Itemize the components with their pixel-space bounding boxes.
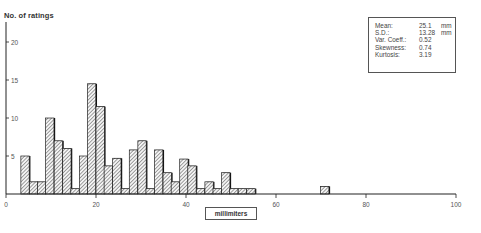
x-tick-label: 20 bbox=[92, 201, 100, 208]
stat-value: 0.74 bbox=[419, 44, 441, 51]
stat-label: S.D.: bbox=[375, 29, 419, 36]
histogram-bar bbox=[138, 141, 146, 194]
histogram-bar bbox=[230, 189, 238, 194]
stat-unit bbox=[441, 44, 455, 51]
stat-row: S.D.:13.28mm bbox=[375, 29, 455, 36]
stat-value: 25.1 bbox=[419, 22, 441, 29]
statistics-box: Mean:25.1mmS.D.:13.28mmVar. Coeff.:0.52S… bbox=[368, 17, 456, 73]
histogram-bar bbox=[205, 182, 213, 194]
y-tick-label: 20 bbox=[11, 39, 19, 46]
stat-unit bbox=[441, 36, 455, 43]
histogram-bar bbox=[54, 141, 62, 194]
histogram-bar bbox=[71, 189, 79, 194]
y-axis-label: No. of ratings bbox=[4, 11, 54, 20]
stat-value: 3.19 bbox=[419, 51, 441, 58]
histogram-bar bbox=[46, 118, 54, 194]
histogram-bar bbox=[188, 166, 196, 194]
y-tick-label: 5 bbox=[11, 153, 15, 160]
histogram-bar bbox=[38, 182, 46, 194]
histogram-bar bbox=[171, 182, 179, 194]
histogram-bar bbox=[196, 189, 204, 194]
histogram-bar bbox=[321, 186, 329, 194]
histogram-bar bbox=[79, 156, 87, 194]
stat-row: Kurtosis:3.19 bbox=[375, 51, 455, 58]
histogram-bar bbox=[96, 107, 104, 194]
histogram-bar bbox=[129, 150, 137, 194]
histogram-bar bbox=[247, 189, 255, 194]
stat-unit: mm bbox=[441, 29, 455, 36]
stat-value: 13.28 bbox=[419, 29, 441, 36]
stat-row: Skewness:0.74 bbox=[375, 44, 455, 51]
stat-label: Var. Coeff.: bbox=[375, 36, 419, 43]
histogram-bars bbox=[21, 84, 330, 194]
x-tick-label: 80 bbox=[362, 201, 370, 208]
histogram-bar bbox=[213, 189, 221, 194]
histogram-bar bbox=[222, 173, 230, 194]
histogram-bar bbox=[63, 148, 71, 194]
stat-unit bbox=[441, 51, 455, 58]
stat-label: Kurtosis: bbox=[375, 51, 419, 58]
stat-unit: mm bbox=[441, 22, 455, 29]
histogram-bar bbox=[29, 182, 37, 194]
x-tick-label: 60 bbox=[272, 201, 280, 208]
x-tick-label: 40 bbox=[182, 201, 190, 208]
x-axis-label: millimiters bbox=[205, 207, 257, 220]
histogram-bar bbox=[113, 158, 121, 194]
stat-row: Mean:25.1mm bbox=[375, 22, 455, 29]
histogram-bar bbox=[146, 189, 154, 194]
stat-label: Mean: bbox=[375, 22, 419, 29]
stat-label: Skewness: bbox=[375, 44, 419, 51]
histogram-bar bbox=[238, 189, 246, 194]
histogram-bar bbox=[21, 156, 29, 194]
histogram-bar bbox=[87, 84, 95, 194]
histogram-bar bbox=[163, 173, 171, 194]
stat-row: Var. Coeff.:0.52 bbox=[375, 36, 455, 43]
histogram-bar bbox=[180, 159, 188, 194]
histogram-bar bbox=[155, 150, 163, 194]
y-tick-label: 10 bbox=[11, 115, 19, 122]
x-tick-label: 100 bbox=[451, 201, 462, 208]
histogram-bar bbox=[104, 166, 112, 194]
y-tick-label: 15 bbox=[11, 77, 19, 84]
stat-value: 0.52 bbox=[419, 36, 441, 43]
x-tick-label: 0 bbox=[4, 201, 8, 208]
histogram-bar bbox=[121, 189, 129, 194]
